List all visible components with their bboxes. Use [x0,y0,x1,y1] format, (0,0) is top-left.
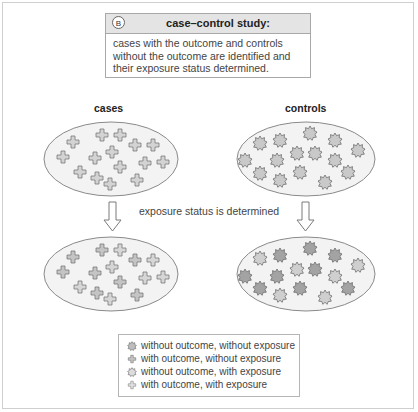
legend: without outcome, without exposure with o… [118,334,300,397]
cases-ellipse [44,122,178,196]
legend-item: without outcome, with exposure [127,365,299,378]
exposure-determined-text: exposure status is determined [139,205,279,217]
controls-ellipse [237,122,375,196]
legend-item: with outcome, without exposure [127,352,299,365]
legend-item: without outcome, without exposure [127,339,299,352]
cross-icon [127,380,137,390]
star-icon [127,341,137,351]
controls-exposure-ellipse [237,237,375,311]
legend-item: with outcome, with exposure [127,378,299,391]
legend-label: without outcome, with exposure [141,365,281,378]
star-icon [127,367,137,377]
legend-label: with outcome, without exposure [141,352,281,365]
legend-label: without outcome, without exposure [141,339,295,352]
cases-exposure-ellipse [44,237,178,311]
legend-label: with outcome, with exposure [141,378,267,391]
cross-icon [127,354,137,364]
